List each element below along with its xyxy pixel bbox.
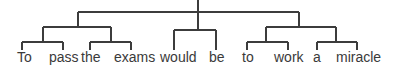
word-work: work <box>274 49 304 65</box>
word-miracle: miracle <box>336 49 381 65</box>
word-the: the <box>81 49 100 65</box>
word-a: a <box>313 49 321 65</box>
word-to-1: To <box>17 49 32 65</box>
word-pass: pass <box>49 49 79 65</box>
word-be: be <box>209 49 225 65</box>
word-to-2: to <box>242 49 254 65</box>
word-would: would <box>160 49 197 65</box>
word-exams: exams <box>114 49 155 65</box>
